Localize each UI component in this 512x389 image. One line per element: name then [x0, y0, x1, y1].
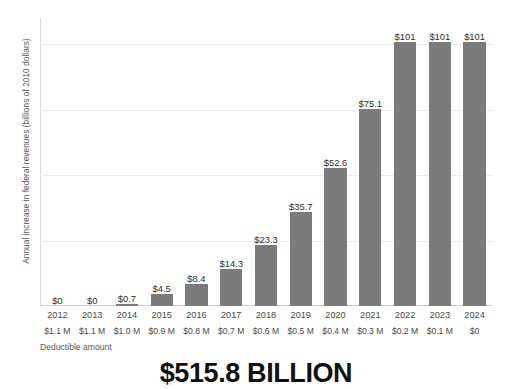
x-tick-label: 2012 [40, 310, 75, 320]
bar-group-2014: $0.7 [110, 18, 145, 306]
bar-value-label: $101 [388, 31, 423, 42]
bar-value-label: $8.4 [179, 273, 214, 284]
deductible-value: $0.6 M [249, 326, 284, 336]
bar-rect [151, 294, 173, 306]
bar-group-2017: $14.3 [214, 18, 249, 306]
x-tick-label: 2015 [144, 310, 179, 320]
deductible-value: $1.1 M [75, 326, 110, 336]
deductible-value: $0 [457, 326, 492, 336]
bar-value-label: $14.3 [214, 258, 249, 269]
x-tick-label: 2018 [249, 310, 284, 320]
x-tick-label: 2023 [422, 310, 457, 320]
bar-value-label: $75.1 [353, 98, 388, 109]
bar-group-2024: $101 [457, 18, 492, 306]
headline-total: $515.8 BILLION [0, 358, 512, 389]
bar-rect [220, 269, 242, 306]
bar-value-label: $23.3 [249, 234, 284, 245]
deductible-value: $1.0 M [110, 326, 145, 336]
bar-group-2023: $101 [422, 18, 457, 306]
deductible-value: $0.1 M [422, 326, 457, 336]
bar-rect [429, 42, 451, 306]
bar-group-2022: $101 [388, 18, 423, 306]
bar-value-label: $101 [422, 31, 457, 42]
x-axis-year-labels: 2012 2013 2014 2015 2016 2017 2018 2019 … [40, 310, 492, 320]
bar-value-label: $52.6 [318, 157, 353, 168]
bar-value-label: $0 [40, 295, 75, 306]
x-tick-label: 2017 [214, 310, 249, 320]
deductible-amount-caption: Deductible amount [40, 342, 112, 352]
x-tick-label: 2013 [75, 310, 110, 320]
x-tick-label: 2014 [110, 310, 145, 320]
x-tick-label: 2024 [457, 310, 492, 320]
bar-rect [290, 212, 312, 306]
bar-rect [324, 168, 346, 306]
deductible-value: $0.9 M [144, 326, 179, 336]
deductible-amount-row: $1.1 M $1.1 M $1.0 M $0.9 M $0.8 M $0.7 … [40, 326, 492, 336]
x-tick-label: 2019 [283, 310, 318, 320]
x-tick-label: 2021 [353, 310, 388, 320]
x-tick-label: 2022 [388, 310, 423, 320]
deductible-value: $0.5 M [283, 326, 318, 336]
bar-value-label: $0 [75, 295, 110, 306]
deductible-value: $0.3 M [353, 326, 388, 336]
bar-group-2019: $35.7 [283, 18, 318, 306]
bar-group-2012: $0 [40, 18, 75, 306]
bar-rect [255, 245, 277, 306]
bar-series: $0 $0 $0.7 $4.5 $8.4 $14.3 [40, 18, 492, 306]
bar-group-2020: $52.6 [318, 18, 353, 306]
bar-rect [394, 42, 416, 306]
deductible-value: $0.4 M [318, 326, 353, 336]
bar-value-label: $0.7 [110, 293, 145, 304]
bar-rect [463, 42, 485, 306]
x-tick-label: 2016 [179, 310, 214, 320]
bar-rect [185, 284, 207, 306]
bar-rect [359, 109, 381, 306]
x-tick-label: 2020 [318, 310, 353, 320]
y-axis-title: Annual increase in federal revenues (bil… [22, 6, 32, 296]
bar-value-label: $101 [457, 31, 492, 42]
bar-value-label: $4.5 [144, 283, 179, 294]
deductible-value: $1.1 M [40, 326, 75, 336]
bar-group-2018: $23.3 [249, 18, 284, 306]
bar-group-2021: $75.1 [353, 18, 388, 306]
bar-group-2013: $0 [75, 18, 110, 306]
bar-rect [116, 304, 138, 306]
bar-group-2016: $8.4 [179, 18, 214, 306]
plot-area: $0 $0 $0.7 $4.5 $8.4 $14.3 [40, 18, 492, 306]
deductible-value: $0.7 M [214, 326, 249, 336]
deductible-value: $0.2 M [388, 326, 423, 336]
bar-value-label: $35.7 [283, 201, 318, 212]
deductible-value: $0.8 M [179, 326, 214, 336]
bar-group-2015: $4.5 [144, 18, 179, 306]
